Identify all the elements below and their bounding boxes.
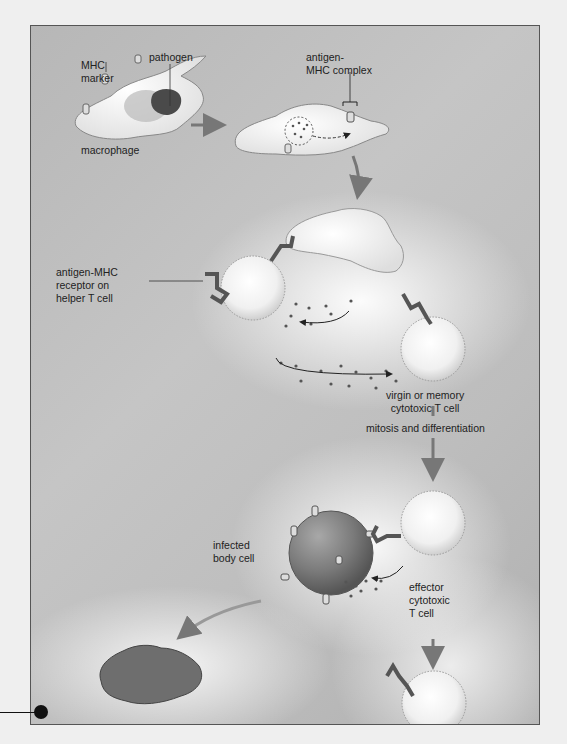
effector-cytotoxic-t-cell (401, 491, 465, 555)
label-line: antigen-MHC (56, 266, 118, 279)
label-line: cytotoxic T cell (386, 402, 464, 415)
label-infected-body-cell: infected body cell (213, 539, 254, 565)
label-effector-t-cell: effector cytotoxic T cell (409, 581, 450, 620)
label-line: MHC complex (306, 64, 372, 77)
label-line: body cell (213, 552, 254, 565)
antigen-mhc-complex-icon (347, 112, 354, 122)
label-line: marker (81, 72, 114, 85)
label-line: T cell (409, 607, 450, 620)
pointer-dot-icon (34, 705, 48, 719)
label-antigen-mhc-complex: antigen- MHC complex (306, 51, 372, 77)
virgin-memory-cytotoxic-t-cell (401, 317, 465, 381)
diagram-frame: MHC marker pathogen macrophage antigen- … (30, 25, 540, 725)
label-macrophage: macrophage (81, 144, 139, 157)
label-antigen-mhc-receptor: antigen-MHC receptor on helper T cell (56, 266, 118, 305)
label-line: cytotoxic (409, 594, 450, 607)
label-line: virgin or memory (386, 389, 464, 402)
label-line: receptor on (56, 279, 118, 292)
apc-cell (286, 209, 403, 273)
label-virgin-memory-t-cell: virgin or memory cytotoxic T cell (386, 389, 464, 415)
dead-cell (100, 645, 202, 703)
label-line: antigen- (306, 51, 372, 64)
label-line: effector (409, 581, 450, 594)
pointer-line (0, 712, 38, 713)
label-mhc-marker: MHC marker (81, 59, 114, 85)
label-line: MHC (81, 59, 114, 72)
helper-t-cell (221, 256, 285, 320)
cytokine-dots (279, 299, 397, 389)
label-mitosis: mitosis and differentiation (366, 422, 485, 435)
label-line: helper T cell (56, 292, 118, 305)
infected-body-cell (289, 511, 373, 595)
label-pathogen: pathogen (149, 51, 193, 64)
diagram-artwork (31, 26, 539, 724)
memory-t-cell (402, 671, 466, 724)
antigen-presenting-macrophage (235, 104, 388, 155)
label-line: infected (213, 539, 254, 552)
